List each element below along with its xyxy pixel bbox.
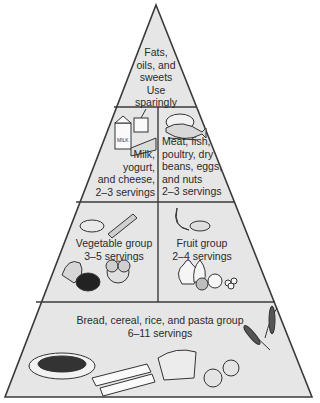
svg-text:MILK: MILK (117, 137, 129, 143)
dairy-group-label: Milk, yogurt, and cheese, 2–3 servings (92, 148, 155, 198)
grain-group-label: Bread, cereal, rice, and pasta group 6–1… (60, 314, 260, 339)
fats-oils-sweets-label: Fats, oils, and sweets Use sparingly (120, 46, 192, 109)
fruit-group-label: Fruit group 2–4 servings (162, 237, 242, 262)
protein-group-label: Meat, fish, poultry, dry beans, eggs, an… (162, 135, 234, 198)
vegetable-group-label: Vegetable group 3–5 servings (70, 237, 158, 262)
